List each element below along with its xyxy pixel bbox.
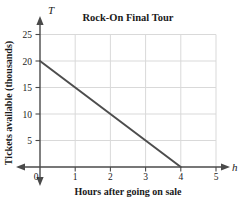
x-tick-label: 2 (108, 172, 113, 182)
y-tick-label: 15 (23, 83, 33, 93)
chart-canvas: Rock-On Final Tour T h 0 1 2 3 4 5 5 10 … (0, 0, 243, 200)
y-tick-label: 5 (27, 136, 32, 146)
x-tick-labels: 0 1 2 3 4 5 (34, 172, 219, 182)
x-tick-label: 0 (34, 172, 39, 182)
y-tick-label: 20 (23, 57, 33, 67)
y-tick-labels: 5 10 15 20 25 (23, 30, 33, 146)
y-tick-label: 25 (23, 30, 33, 40)
x-tick-label: 3 (143, 172, 148, 182)
x-axis-title: Hours after going on sale (74, 186, 182, 197)
chart-figure: Rock-On Final Tour T h 0 1 2 3 4 5 5 10 … (0, 0, 243, 200)
x-axis-variable-label: h (232, 161, 238, 173)
y-axis (36, 16, 43, 186)
x-tick-label: 5 (214, 172, 219, 182)
y-axis-variable-label: T (48, 4, 55, 16)
y-axis-title: Tickets available (thousands) (3, 41, 15, 165)
y-tick-label: 10 (23, 110, 33, 120)
x-tick-label: 1 (73, 172, 78, 182)
x-tick-label: 4 (178, 172, 183, 182)
grid-lines (40, 35, 216, 168)
chart-title: Rock-On Final Tour (82, 12, 173, 23)
x-axis (16, 163, 230, 170)
